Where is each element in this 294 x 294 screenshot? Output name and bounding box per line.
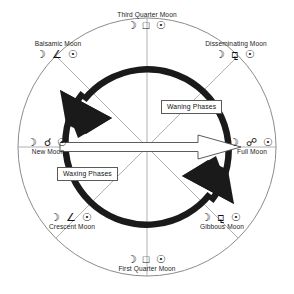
phase-label-third-quarter: Third Quarter Moon xyxy=(95,12,199,19)
phase-symbols-first-quarter: ☽ □ ☉ xyxy=(95,253,199,266)
phase-node-full: ☽ ☍ ☉ Full Moon xyxy=(200,136,294,156)
phase-symbols-disseminating: ☽ ⚼ ☉ xyxy=(184,48,288,61)
phase-node-new: ☽ ☌ ☉ New Moon xyxy=(0,136,100,156)
phase-node-gibbous: ☽ ⚼ ☉ Gibbous Moon xyxy=(170,211,274,231)
phase-symbols-third-quarter: ☽ □ ☉ xyxy=(95,19,199,32)
phase-node-balsamic: Balsamic Moon ☽ ∠ ☉ xyxy=(6,41,110,61)
phase-symbols-balsamic: ☽ ∠ ☉ xyxy=(6,48,110,61)
waning-phases-callout: Waning Phases xyxy=(161,100,222,114)
phase-symbols-full: ☽ ☍ ☉ xyxy=(200,136,294,149)
phase-label-new: New Moon xyxy=(0,149,100,156)
lunar-phase-diagram: Third Quarter Moon ☽ □ ☉ Disseminating M… xyxy=(0,0,294,294)
phase-symbols-gibbous: ☽ ⚼ ☉ xyxy=(170,211,274,224)
phase-label-gibbous: Gibbous Moon xyxy=(170,224,274,231)
phase-node-third-quarter: Third Quarter Moon ☽ □ ☉ xyxy=(95,12,199,32)
phase-label-first-quarter: First Quarter Moon xyxy=(95,266,199,273)
phase-node-disseminating: Disseminating Moon ☽ ⚼ ☉ xyxy=(184,41,288,61)
phase-label-disseminating: Disseminating Moon xyxy=(184,41,288,48)
phase-node-first-quarter: ☽ □ ☉ First Quarter Moon xyxy=(95,253,199,273)
phase-symbols-crescent: ☽ ∠ ☉ xyxy=(20,211,124,224)
phase-symbols-new: ☽ ☌ ☉ xyxy=(0,136,100,149)
phase-label-crescent: Crescent Moon xyxy=(20,224,124,231)
phase-label-balsamic: Balsamic Moon xyxy=(6,41,110,48)
phase-node-crescent: ☽ ∠ ☉ Crescent Moon xyxy=(20,211,124,231)
phase-label-full: Full Moon xyxy=(200,149,294,156)
waxing-phases-callout: Waxing Phases xyxy=(57,167,118,181)
